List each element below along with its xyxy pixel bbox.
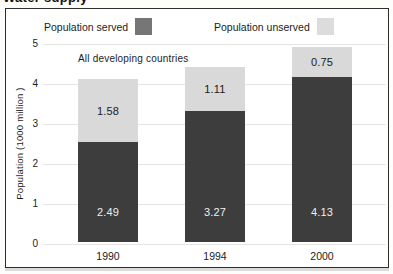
x-category-label: 1990 [68, 250, 148, 262]
bar-segment-served [185, 111, 245, 242]
x-category-label: 1994 [175, 250, 255, 262]
y-axis-title: Population (1000 million ) [14, 69, 25, 219]
legend-swatch-served [135, 18, 152, 35]
bar-value-unserved: 1.11 [185, 83, 245, 95]
bar-value-unserved: 1.58 [78, 105, 138, 117]
legend-item-served: Population served [44, 18, 152, 35]
bar-1990: 2.491.58 [78, 79, 138, 242]
y-tick-label: 2 [12, 158, 38, 169]
y-tick-label: 5 [12, 38, 38, 49]
legend-swatch-unserved [317, 18, 334, 35]
legend-label-served: Population served [44, 21, 128, 33]
page-heading-text: Water supply [3, 0, 123, 5]
chart-subtitle: All developing countries [78, 53, 188, 64]
figure-frame: Population served Population unserved Al… [5, 8, 389, 268]
y-tick-label: 3 [12, 118, 38, 129]
bar-segment-served [78, 142, 138, 242]
chart-legend: Population served Population unserved [6, 18, 388, 36]
gridline [43, 44, 386, 45]
legend-item-unserved: Population unserved [214, 18, 334, 35]
x-category-label: 2000 [282, 250, 362, 262]
bar-value-served: 4.13 [292, 206, 352, 218]
bar-1994: 3.271.11 [185, 67, 245, 242]
y-tick-label: 4 [12, 78, 38, 89]
y-tick-label: 1 [12, 198, 38, 209]
bar-value-served: 2.49 [78, 206, 138, 218]
page-heading-cropped: Water supply [3, 0, 123, 7]
bar-2000: 4.130.75 [292, 47, 352, 242]
bar-value-served: 3.27 [185, 206, 245, 218]
gridline [43, 244, 386, 245]
y-tick-label: 0 [12, 238, 38, 249]
legend-label-unserved: Population unserved [214, 21, 310, 33]
bar-value-unserved: 0.75 [292, 56, 352, 68]
